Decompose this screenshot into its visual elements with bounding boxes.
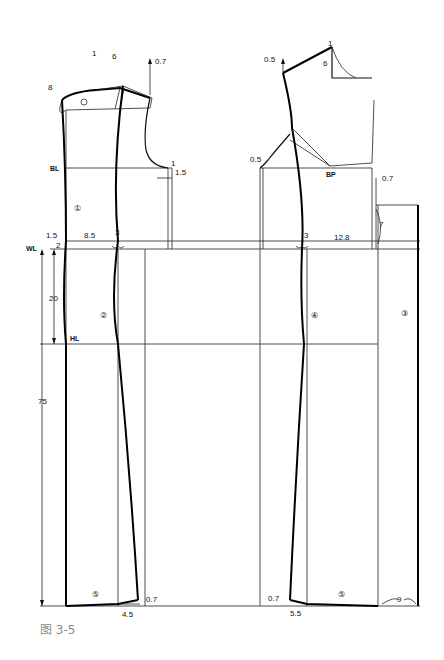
- front-dart-label: 3: [304, 231, 309, 240]
- figure-caption: 图 3-5: [40, 620, 75, 637]
- seam-marker-5-back: ⑤: [92, 590, 99, 599]
- back-shoulder-dart-label: 6: [112, 52, 117, 61]
- back-dart-label: 3: [115, 228, 120, 237]
- back-armhole-out-label: 1.5: [175, 168, 187, 177]
- front-neck-depth-label: 6: [323, 59, 328, 68]
- pattern-drawing: 1 6 0.7 8 BL 1 1.5 ① 1.5 2 8.5 3 WL 20 ②…: [0, 0, 444, 660]
- front-armhole-in-label: 0.5: [250, 155, 262, 164]
- seam-marker-5-front: ⑤: [338, 590, 345, 599]
- bust-point-label: BP: [326, 171, 336, 178]
- hip-line-label: HL: [70, 335, 80, 342]
- front-shoulder-raise-label: 0.5: [264, 55, 276, 64]
- front-piece: 0.5 1 6 0.5 BP 0.7 7 12.8 3 ④ ③ ⑤ 0.7 5.…: [250, 39, 418, 618]
- back-armhole-drop-label: 1: [171, 159, 176, 168]
- seam-marker-1: ①: [74, 204, 81, 213]
- total-length-dimension: 75: [38, 397, 47, 406]
- back-piece: 1 6 0.7 8 BL 1 1.5 ① 1.5 2 8.5 3 WL 20 ②…: [26, 49, 420, 619]
- waist-line-label: WL: [26, 245, 38, 252]
- bust-line-label: BL: [50, 165, 60, 172]
- back-waist-drop-label: 2: [56, 241, 61, 250]
- pattern-diagram: 1 6 0.7 8 BL 1 1.5 ① 1.5 2 8.5 3 WL 20 ②…: [0, 0, 444, 660]
- back-center-in-label: 1.5: [46, 231, 58, 240]
- back-neck-rise-label: 1: [92, 49, 97, 58]
- back-shoulder-raise-label: 0.7: [155, 57, 167, 66]
- front-side-raise-label: 0.7: [382, 174, 394, 183]
- front-waist-width-label: 12.8: [334, 233, 350, 242]
- notch-marker: [81, 99, 87, 105]
- waist-to-hip-dimension: 20: [49, 294, 58, 303]
- front-hem-in-label: 0.7: [268, 594, 280, 603]
- front-side-length-label: 7: [379, 220, 384, 229]
- back-neck-curve-label: 8: [48, 83, 53, 92]
- seam-marker-4: ④: [311, 311, 318, 320]
- back-hem-width-label: 4.5: [122, 610, 134, 619]
- front-neck-rise-label: 1: [328, 39, 333, 48]
- seam-marker-3: ③: [401, 309, 408, 318]
- back-waist-width-label: 8.5: [84, 231, 96, 240]
- seam-marker-2: ②: [100, 311, 107, 320]
- front-hem-width-label: 5.5: [290, 609, 302, 618]
- front-hem-extension-label: 9: [397, 595, 402, 604]
- back-hem-out-label: 0.7: [146, 595, 158, 604]
